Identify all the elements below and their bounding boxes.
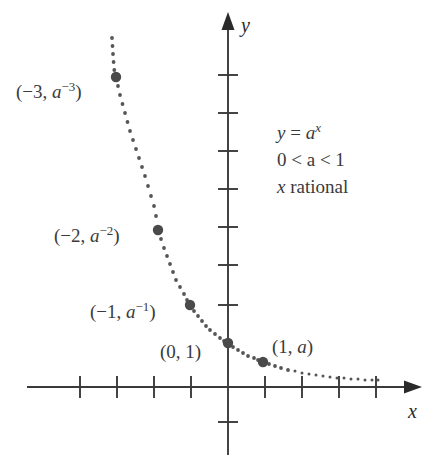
curve-dot	[178, 285, 182, 289]
curve-dot	[111, 44, 115, 48]
curve-dot	[279, 366, 283, 370]
curve-dot	[152, 204, 156, 208]
curve-dot	[131, 138, 135, 142]
curve-dot	[377, 379, 380, 382]
point-label-neg1-base: a	[126, 301, 136, 322]
point-label-neg2-exp: −2	[100, 223, 114, 238]
point-label-pos1-close: )	[307, 336, 313, 357]
curve-dot	[123, 111, 127, 115]
curve-dot	[236, 348, 240, 352]
curve-dot	[364, 379, 367, 382]
curve-dot	[168, 262, 172, 266]
annotation-line-domain: x rational	[277, 174, 348, 201]
curve-dot	[112, 68, 116, 72]
point-label-pos1-base: a	[297, 336, 307, 357]
curve-dot	[134, 147, 138, 151]
x-axis-arrowhead	[404, 381, 422, 394]
point-label-neg3: (−3, a−3)	[16, 82, 82, 101]
curve-dot	[137, 156, 141, 160]
curve-dot	[213, 332, 217, 336]
y-axis-label: y	[241, 14, 250, 37]
annotation-constraint-text: 0 < a < 1	[277, 149, 345, 170]
data-point-marker: (−1, a⁻¹)	[185, 300, 195, 310]
data-point-marker: (−3, a⁻³)	[111, 72, 121, 82]
curve-dot	[192, 309, 196, 313]
curve-dot	[143, 174, 147, 178]
annotation-line-constraint: 0 < a < 1	[277, 147, 348, 174]
equation-annotation: y = ax 0 < a < 1 x rational	[277, 120, 348, 201]
point-label-origin-text: (0, 1)	[160, 341, 201, 362]
annotation-equals: =	[285, 122, 305, 143]
point-label-neg1-close: )	[149, 301, 155, 322]
curve-dot	[301, 372, 304, 375]
curve-dot	[286, 368, 290, 372]
point-label-origin: (0, 1)	[160, 342, 201, 361]
curve-dot	[246, 354, 250, 358]
x-axis-label-text: x	[408, 400, 417, 422]
point-label-neg3-exp: −3	[62, 79, 76, 94]
curve-dot	[350, 378, 353, 381]
curve-dot	[118, 93, 122, 97]
y-axis-label-text: y	[241, 14, 250, 36]
curve-dot	[140, 165, 144, 169]
curve-dot	[218, 336, 222, 340]
curve-dot	[149, 194, 153, 198]
curve-dot	[204, 324, 208, 328]
curve-dot	[116, 84, 120, 88]
curve-dot	[294, 370, 297, 373]
curve-dot	[343, 377, 346, 380]
x-axis-label: x	[408, 400, 417, 423]
curve-dot	[110, 36, 114, 40]
curve-dot	[128, 129, 132, 133]
curve-dot	[112, 60, 116, 64]
exponential-curve-dotted	[110, 36, 379, 381]
curve-dot	[315, 374, 318, 377]
point-label-pos1-text: (1,	[272, 336, 297, 357]
curve-dot	[162, 246, 166, 250]
curve-dot	[273, 364, 277, 368]
y-axis-arrowhead	[222, 12, 235, 30]
point-label-neg2-base: a	[90, 225, 100, 246]
curve-dot	[146, 184, 150, 188]
point-label-pos1: (1, a)	[272, 337, 313, 356]
curve-dot	[111, 52, 115, 56]
curve-dot	[182, 292, 186, 296]
curve-dot	[126, 120, 130, 124]
curve-dot	[200, 319, 204, 323]
curve-dot	[196, 314, 200, 318]
annotation-line-equation: y = ax	[277, 120, 348, 147]
curve-dot	[336, 377, 339, 380]
point-label-neg1-exp: −1	[136, 299, 150, 314]
point-label-neg2-close: )	[113, 225, 119, 246]
curve-dot	[154, 214, 158, 218]
marked-points-group: (−3, a⁻³)(−2, a⁻²)(−1, a⁻¹)(0, 1)(1, a)	[111, 72, 268, 367]
point-label-neg2: (−2, a−2)	[54, 226, 120, 245]
point-label-neg3-close: )	[75, 81, 81, 102]
data-point-marker: (1, a)	[258, 357, 268, 367]
curve-dot	[322, 375, 325, 378]
curve-dot	[357, 378, 360, 381]
curve-dot	[252, 356, 256, 360]
curve-dot	[174, 278, 178, 282]
annotation-domain-text: rational	[285, 176, 348, 197]
point-label-neg1: (−1, a−1)	[90, 302, 156, 321]
curve-dot	[121, 102, 125, 106]
annotation-exponent-var: x	[315, 120, 321, 135]
curve-dot	[371, 379, 374, 382]
point-label-neg3-base: a	[52, 81, 62, 102]
point-label-neg3-text: (−3,	[16, 81, 52, 102]
data-point-marker: (0, 1)	[223, 338, 233, 348]
curve-dot	[308, 373, 311, 376]
annotation-base-var: a	[306, 122, 316, 143]
curve-dot	[165, 254, 169, 258]
data-point-marker: (−2, a⁻²)	[153, 225, 163, 235]
curve-dot	[329, 376, 332, 379]
curve-dot	[171, 270, 175, 274]
curve-dot	[241, 351, 245, 355]
point-label-neg2-text: (−2,	[54, 225, 90, 246]
curve-dot	[208, 328, 212, 332]
point-label-neg1-text: (−1,	[90, 301, 126, 322]
curve-dot	[159, 237, 163, 241]
